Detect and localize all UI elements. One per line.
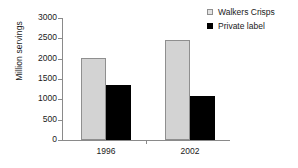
plot-area: 0 500 1000 1500 2000 2500 3000 xyxy=(62,18,230,140)
bar-walkers-crisps-2002 xyxy=(165,40,190,140)
y-tick-label-1500: 1500 xyxy=(38,73,57,83)
bar-private-label-1996 xyxy=(106,85,131,140)
y-tick-label-3000: 3000 xyxy=(38,12,57,22)
bar-chart: Million servings 0 500 1000 1500 2000 25… xyxy=(0,0,298,168)
y-tick-label-2000: 2000 xyxy=(38,53,57,63)
bar-private-label-2002 xyxy=(190,96,215,140)
x-axis-label-1996: 1996 xyxy=(81,146,131,156)
y-axis-line xyxy=(62,18,63,140)
legend-label-walkers-crisps: Walkers Crisps xyxy=(218,7,275,17)
y-tick-label-1000: 1000 xyxy=(38,93,57,103)
y-axis-title: Million servings xyxy=(14,6,24,96)
x-axis-separator-tick xyxy=(146,140,147,144)
legend-swatch-dark-icon xyxy=(207,23,213,29)
legend-label-private-label: Private label xyxy=(218,21,265,31)
legend-item-private-label: Private label xyxy=(207,20,275,32)
y-tick-label-2500: 2500 xyxy=(38,32,57,42)
y-tick-label-0: 0 xyxy=(52,134,57,144)
y-tick-label-500: 500 xyxy=(43,114,57,124)
legend: Walkers Crisps Private label xyxy=(207,6,275,34)
legend-item-walkers-crisps: Walkers Crisps xyxy=(207,6,275,18)
legend-swatch-light-icon xyxy=(207,9,213,15)
x-axis-label-2002: 2002 xyxy=(165,146,215,156)
bar-walkers-crisps-1996 xyxy=(81,58,106,140)
